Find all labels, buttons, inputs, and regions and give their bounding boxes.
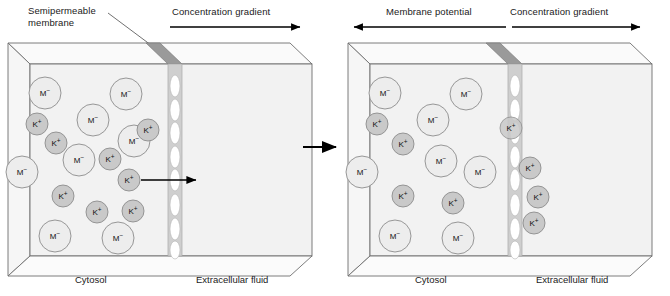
ion-m-minus: M− [425,145,457,177]
extracellular-fluid-label-after: Extracellular fluid [536,274,608,285]
ion-k-plus: K+ [52,185,74,207]
ion-m-minus: M− [29,77,61,109]
ion-k-plus: K+ [86,201,108,223]
ion-k-plus: K+ [392,185,414,207]
ion-k-plus: K+ [527,186,549,208]
ion-m-minus: M− [77,104,109,136]
ion-k-plus: K+ [442,192,464,214]
ion-k-plus: K+ [45,132,67,154]
ion-k-plus: K+ [118,169,140,191]
panel-before-graphics: M− M− M− M− M− M− M− M− K+ K+ K+ K+ K+ K… [0,0,330,296]
cytosol-label-after: Cytosol [415,274,447,285]
membrane-potential-diagram: Semipermeable membrane Concentration gra… [0,0,670,296]
ion-k-plus: K+ [519,157,541,179]
cytosol-label-before: Cytosol [75,274,107,285]
ion-m-minus: M− [102,222,134,254]
ion-m-minus: M− [346,156,378,188]
ion-k-plus: K+ [500,117,522,139]
extracellular-fluid-label-before: Extracellular fluid [196,274,268,285]
ion-k-plus: K+ [392,133,414,155]
ion-m-minus: M− [450,78,482,110]
ion-k-plus: K+ [99,148,121,170]
ion-m-minus: M− [63,144,95,176]
ion-m-minus: M− [379,220,411,252]
ion-k-plus: K+ [523,212,545,234]
ion-m-minus: M− [6,156,38,188]
box-bottom-face-before [8,256,312,276]
ion-m-minus: M− [417,104,449,136]
panel-before: Semipermeable membrane Concentration gra… [0,0,330,296]
ion-k-plus: K+ [366,113,388,135]
ion-k-plus: K+ [137,119,159,141]
box-bottom-face-after [348,256,652,276]
ion-k-plus: K+ [26,113,48,135]
ion-k-plus: K+ [122,200,144,222]
ion-m-minus: M− [369,77,401,109]
panel-after-graphics: M− M− M− M− M− M− M− M− K+ K+ K+ K+ K+ K… [340,0,670,296]
transition-arrow [300,137,344,157]
ion-m-minus: M− [39,220,71,252]
ion-m-minus: M− [442,222,474,254]
ion-m-minus: M− [110,78,142,110]
panel-after: Membrane potential Concentration gradien… [340,0,670,296]
ion-m-minus: M− [464,156,496,188]
